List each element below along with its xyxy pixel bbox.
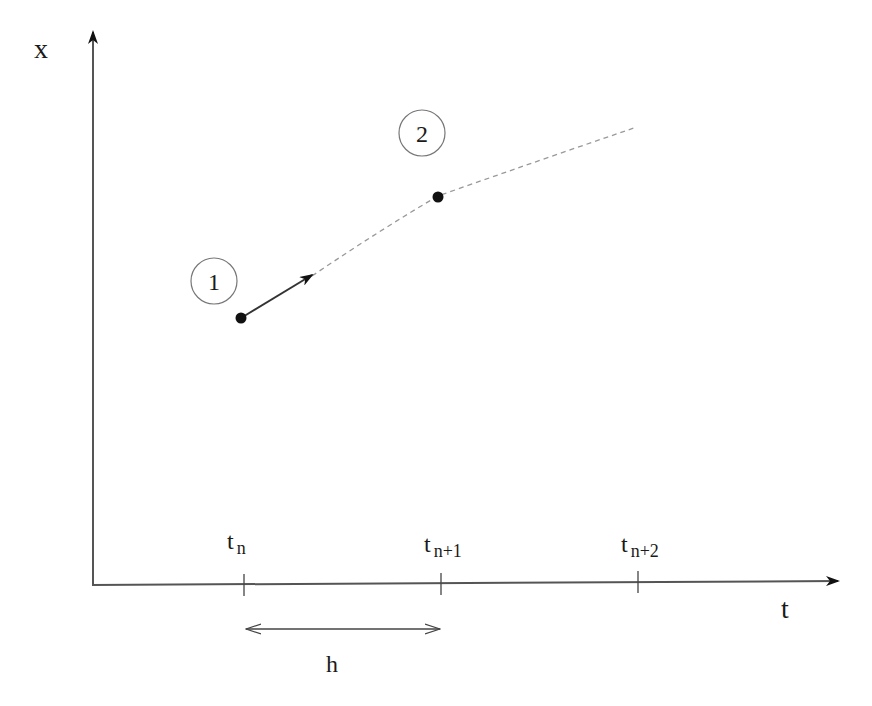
slope-arrow bbox=[241, 275, 312, 318]
step-size-label: h bbox=[326, 651, 338, 677]
y-axis-label: x bbox=[34, 33, 48, 64]
tick-label-tn1: tn+1 bbox=[424, 531, 462, 561]
tick-label-tn: tn bbox=[227, 528, 246, 558]
point-xn bbox=[236, 313, 247, 324]
tick-label-tn2: tn+2 bbox=[621, 531, 659, 561]
point-xn1 bbox=[433, 192, 444, 203]
t-axis-horizontal bbox=[92, 581, 838, 585]
integration-step-diagram: x t tn tn+1 tn+2 h 1 2 bbox=[0, 0, 872, 706]
marker-1-label: 1 bbox=[208, 269, 220, 295]
marker-2-label: 2 bbox=[416, 121, 428, 147]
x-axis-label: t bbox=[781, 593, 789, 624]
trajectory-dashed bbox=[312, 128, 634, 276]
